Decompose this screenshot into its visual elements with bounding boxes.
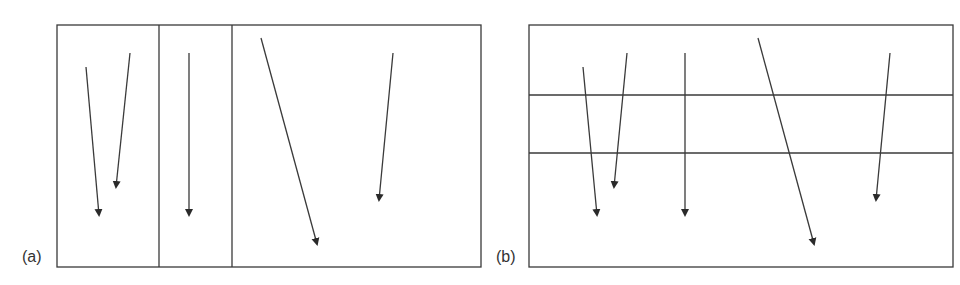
arrow-icon <box>261 38 317 244</box>
arrow-icon <box>614 53 627 187</box>
panel-b-label: (b) <box>496 248 516 266</box>
diagram-canvas <box>0 0 960 285</box>
arrow-icon <box>379 53 393 200</box>
panel-a-vertical-partition <box>57 25 481 267</box>
arrow-icon <box>86 67 99 215</box>
figure: (a) (b) <box>0 0 960 285</box>
arrow-icon <box>116 53 130 187</box>
panel-a-label: (a) <box>22 248 42 266</box>
arrow-icon <box>583 67 597 215</box>
arrow-icon <box>876 53 890 200</box>
panel-b-horizontal-partition <box>529 25 953 267</box>
arrow-icon <box>758 38 814 244</box>
